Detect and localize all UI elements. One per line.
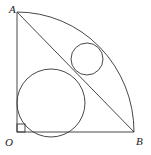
chord-AB (17, 12, 134, 132)
large-inscribed-circle (17, 69, 85, 137)
quarter-circle-diagram: A B O (0, 0, 151, 155)
label-A: A (8, 3, 16, 15)
small-inscribed-circle (71, 43, 103, 75)
label-B: B (136, 135, 143, 147)
right-angle-marker (17, 124, 25, 132)
label-O: O (5, 136, 13, 148)
